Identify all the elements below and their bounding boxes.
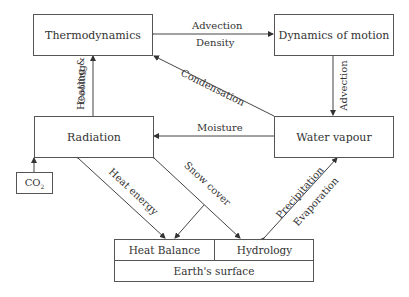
thermodynamics-label: Thermodynamics <box>45 29 141 42</box>
water-vapour-label: Water vapour <box>296 131 371 144</box>
dynamics-label: Dynamics of motion <box>279 29 390 42</box>
hydrology-cell: Hydrology <box>215 240 314 260</box>
radiation-box: Radiation <box>34 116 154 158</box>
snow-cover-branch-arrow <box>175 205 204 238</box>
dynamics-of-motion-box: Dynamics of motion <box>274 14 394 56</box>
co2-label: CO2 <box>25 177 45 190</box>
cooling-label: Cooling <box>76 65 87 104</box>
radiation-label: Radiation <box>67 131 121 144</box>
earth-surface-cell: Earth's surface <box>115 261 313 281</box>
co2-box: CO2 <box>16 172 53 194</box>
moisture-label: Moisture <box>197 122 243 133</box>
density-label: Density <box>196 37 234 48</box>
advection-label: Advection <box>192 20 242 31</box>
heat-energy-arrow <box>78 158 165 238</box>
advection-vertical-label: Advection <box>338 60 349 110</box>
water-vapour-box: Water vapour <box>274 116 394 158</box>
earth-surface-box: Heat Balance Hydrology Earth's surface <box>114 239 314 282</box>
heat-balance-cell: Heat Balance <box>115 240 214 260</box>
thermodynamics-box: Thermodynamics <box>33 14 153 56</box>
